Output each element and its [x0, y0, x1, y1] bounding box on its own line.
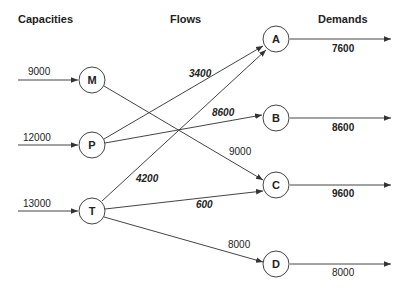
node-label-d: D [272, 258, 280, 270]
node-m: M [79, 67, 105, 93]
node-a: A [263, 26, 289, 52]
node-d: D [263, 251, 289, 277]
capacity-arrow-p: 12000 [18, 132, 78, 145]
demand-label-d: 8000 [332, 267, 355, 278]
node-t: T [79, 198, 105, 224]
header-flows: Flows [170, 13, 201, 25]
demand-arrow-b: 8600 [290, 118, 391, 133]
capacity-arrow-t: 13000 [18, 198, 78, 211]
demand-label-a: 7600 [332, 43, 355, 54]
capacity-arrow-m: 9000 [18, 66, 78, 80]
flow-label-t-c: 600 [196, 199, 213, 210]
node-c: C [263, 172, 289, 198]
node-b: B [263, 105, 289, 131]
flow-m-to-c: 9000 [104, 86, 263, 180]
flow-label-p-b: 8600 [212, 107, 235, 118]
flow-label-m-c: 9000 [229, 146, 252, 157]
capacity-label-m: 9000 [28, 66, 51, 77]
header-demands: Demands [318, 13, 368, 25]
demand-label-c: 9600 [332, 188, 355, 199]
node-label-m: M [87, 74, 96, 86]
demand-arrow-a: 7600 [290, 39, 391, 54]
demand-arrow-c: 9600 [290, 185, 391, 199]
demand-label-b: 8600 [332, 122, 355, 133]
node-p: P [79, 132, 105, 158]
demand-arrow-d: 8000 [290, 264, 391, 278]
transportation-network-diagram: Capacities Flows Demands 9000 12000 1300… [0, 0, 401, 294]
node-label-b: B [272, 112, 280, 124]
flow-t-to-c: 600 [105, 191, 263, 210]
flow-label-t-a: 4200 [135, 173, 159, 184]
flow-t-to-d: 8000 [104, 217, 263, 262]
node-label-t: T [89, 205, 96, 217]
node-label-c: C [272, 179, 280, 191]
capacity-label-p: 12000 [23, 132, 51, 143]
node-label-p: P [88, 139, 95, 151]
flow-label-t-d: 8000 [228, 239, 251, 250]
node-label-a: A [272, 33, 280, 45]
header-capacities: Capacities [18, 13, 73, 25]
capacity-label-t: 13000 [23, 198, 51, 209]
flow-p-to-a: 3400 [104, 46, 263, 139]
flow-label-p-a: 3400 [189, 68, 212, 79]
